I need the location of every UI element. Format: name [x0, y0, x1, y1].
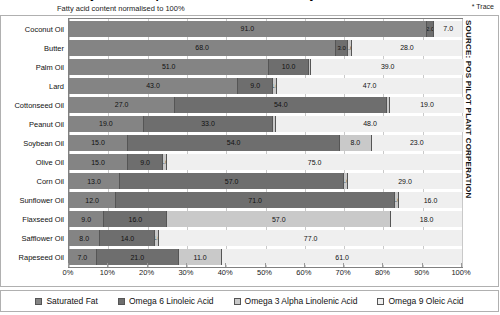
bar-row: Butter68.03.01.028.0 — [69, 40, 464, 56]
axis-tick-label: 20% — [139, 268, 154, 277]
bar-segment: 2.0 — [427, 21, 435, 37]
bar-segment: 16.0 — [399, 192, 462, 208]
axis-tickmark — [147, 263, 148, 267]
bar-segment: 9.0 — [128, 154, 163, 170]
category-label: Corn Oil — [36, 177, 64, 186]
category-label: Sunflower Oil — [19, 196, 64, 205]
category-label: Coconut Oil — [25, 24, 64, 33]
bar-row: Soybean Oil15.054.08.023.0 — [69, 135, 464, 151]
bar-segment: 8.0 — [69, 230, 100, 246]
bar-segment: 47.0 — [277, 78, 462, 94]
category-label: Olive Oil — [36, 158, 64, 167]
axis-tickmark — [343, 263, 344, 267]
bar-segment: 54.0 — [175, 97, 387, 113]
legend-label: Omega 6 Linoleic Acid — [129, 296, 214, 306]
axis-tick-label: 90% — [414, 268, 429, 277]
bar-row: Cottonseed Oil27.054.0*19.0 — [69, 97, 464, 113]
axis-tick-label: 60% — [296, 268, 311, 277]
bar-segment: 19.0 — [390, 97, 465, 113]
segment-value: 9.0 — [81, 216, 91, 223]
segment-value: 47.0 — [363, 82, 377, 89]
bar-segment: 15.0 — [69, 135, 128, 151]
segment-value: 29.0 — [398, 178, 412, 185]
segment-value: 54.0 — [274, 101, 288, 108]
axis-tick-label: 70% — [336, 268, 351, 277]
segment-value: 7.0 — [77, 254, 87, 261]
bar-segment: 71.0 — [116, 192, 395, 208]
chart-title: Fatty Acid Composition of Common Dietary… — [68, 0, 398, 1]
chart-subtitle: Fatty acid content normalised to 100% — [57, 4, 185, 13]
segment-value: 8.0 — [351, 139, 361, 146]
category-label: Peanut Oil — [29, 119, 64, 128]
segment-value: 33.0 — [201, 120, 215, 127]
bar-row: Palm Oil51.010.0*39.0 — [69, 59, 464, 75]
bar-segment: 18.0 — [391, 211, 462, 227]
bar-segment: 3.0 — [336, 40, 348, 56]
legend-item[interactable]: Omega 3 Alpha Linolenic Acid — [234, 296, 358, 306]
segment-value: 15.0 — [91, 139, 105, 146]
category-label: Safflower Oil — [22, 234, 64, 243]
segment-value: 3.0 — [337, 45, 345, 51]
segment-value: 15.0 — [91, 159, 105, 166]
bar-row: Corn Oil13.057.01.029.0 — [69, 173, 464, 189]
bar-segment: 28.0 — [352, 40, 462, 56]
segment-value: 14.0 — [121, 235, 135, 242]
bar-segment: 10.0 — [269, 59, 308, 75]
bar-segment: 27.0 — [69, 97, 175, 113]
axis-tickmark — [265, 263, 266, 267]
segment-value: 39.0 — [381, 63, 395, 70]
segment-value: 75.0 — [308, 159, 322, 166]
legend-swatch-icon — [234, 298, 241, 305]
category-label: Soybean Oil — [23, 138, 64, 147]
segment-value: 11.0 — [194, 254, 207, 261]
segment-value: 12.0 — [85, 197, 99, 204]
bar-segment: 9.0 — [238, 78, 273, 94]
category-label: Flaxseed Oil — [22, 215, 64, 224]
bar-segment: 12.0 — [69, 192, 116, 208]
segment-value: 71.0 — [248, 197, 262, 204]
segment-value: 68.0 — [195, 44, 209, 51]
legend-label: Saturated Fat — [46, 296, 98, 306]
bar-segment: 75.0 — [167, 154, 462, 170]
bar-row: Safflower Oil8.014.01.077.0 — [69, 230, 464, 246]
legend-swatch-icon — [35, 298, 42, 305]
axis-tick-label: 100% — [451, 268, 470, 277]
legend-swatch-icon — [118, 298, 125, 305]
legend-item[interactable]: Saturated Fat — [35, 296, 98, 306]
bar-segment: 51.0 — [69, 59, 269, 75]
legend-item[interactable]: Omega 9 Oleic Acid — [377, 296, 463, 306]
bar-segment: 16.0 — [104, 211, 167, 227]
bar-segment: 48.0 — [276, 116, 465, 132]
bar-segment: 43.0 — [69, 78, 238, 94]
bar-segment: 9.0 — [69, 211, 104, 227]
bar-segment: 13.0 — [69, 173, 120, 189]
segment-value: 19.0 — [420, 101, 434, 108]
bar-segment: 91.0 — [69, 21, 427, 37]
bar-rows: Coconut Oil91.02.07.0Butter68.03.01.028.… — [69, 19, 464, 269]
axis-tickmark — [186, 263, 187, 267]
legend-label: Omega 9 Oleic Acid — [388, 296, 463, 306]
bar-segment: 14.0 — [100, 230, 155, 246]
segment-value: 43.0 — [146, 82, 160, 89]
segment-value: 28.0 — [400, 44, 414, 51]
bar-segment: 8.0 — [340, 135, 371, 151]
axis-tick-label: 0% — [63, 268, 74, 277]
bar-segment: 15.0 — [69, 154, 128, 170]
category-label: Lard — [49, 81, 64, 90]
segment-value: 27.0 — [115, 101, 129, 108]
category-label: Butter — [44, 43, 64, 52]
segment-value: 51.0 — [162, 63, 176, 70]
bar-segment: 33.0 — [144, 116, 274, 132]
plot-area: Coconut Oil91.02.07.0Butter68.03.01.028.… — [68, 18, 463, 274]
legend-item[interactable]: Omega 6 Linoleic Acid — [118, 296, 214, 306]
axis-tick-label: 80% — [375, 268, 390, 277]
legend-label: Omega 3 Alpha Linolenic Acid — [245, 296, 358, 306]
axis-tick-label: 30% — [178, 268, 193, 277]
bar-segment: 39.0 — [311, 59, 464, 75]
segment-value: 91.0 — [241, 25, 255, 32]
bar-row: Rapeseed Oil7.021.011.061.0 — [69, 249, 464, 265]
bar-segment: 21.0 — [97, 249, 180, 265]
bar-row: Flaxseed Oil9.016.057.018.0 — [69, 211, 464, 227]
plot-inner: Coconut Oil91.02.07.0Butter68.03.01.028.… — [68, 18, 463, 268]
axis-tick-label: 50% — [257, 268, 272, 277]
